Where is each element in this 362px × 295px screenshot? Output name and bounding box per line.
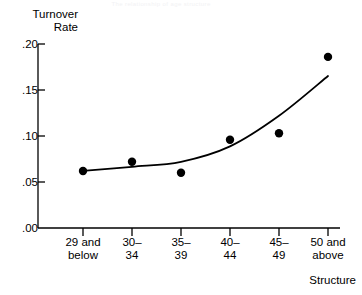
data-point bbox=[275, 129, 283, 137]
fit-curve bbox=[83, 76, 328, 171]
data-point-group bbox=[79, 53, 332, 177]
chart-root: The relationship of age structure Turnov… bbox=[0, 0, 362, 295]
data-point bbox=[226, 135, 234, 143]
data-point bbox=[128, 158, 136, 166]
data-point bbox=[79, 167, 87, 175]
data-point bbox=[324, 53, 332, 61]
plot-area bbox=[0, 0, 362, 295]
data-point bbox=[177, 169, 185, 177]
